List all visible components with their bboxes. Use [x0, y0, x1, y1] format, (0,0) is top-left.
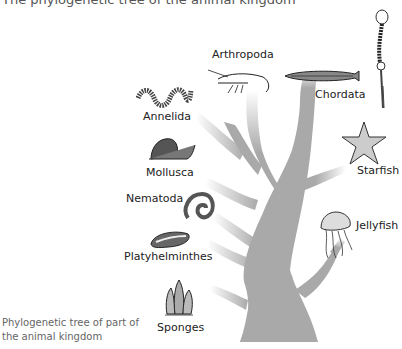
caption-line-2: the animal kingdom	[2, 330, 139, 344]
label-starfish: Starfish	[357, 164, 399, 177]
sponge-icon	[163, 278, 195, 318]
label-platyhelminthes: Platyhelminthes	[124, 250, 213, 263]
skeleton-icon	[370, 8, 395, 113]
phylogenetic-tree	[0, 0, 402, 349]
label-sponges: Sponges	[157, 321, 204, 334]
nematode-icon	[180, 190, 220, 224]
shrimp-icon	[208, 67, 273, 95]
label-arthropoda: Arthropoda	[212, 48, 274, 61]
starfish-icon	[340, 120, 388, 168]
snail-icon	[147, 133, 197, 163]
label-jellyfish: Jellyfish	[356, 219, 398, 232]
lancelet-icon	[283, 68, 361, 84]
caption-line-1: Phylogenetic tree of part of	[2, 316, 139, 330]
figure-caption: Phylogenetic tree of part of the animal …	[2, 316, 139, 344]
worm-icon	[136, 80, 194, 110]
label-nematoda: Nematoda	[126, 192, 183, 205]
jellyfish-icon	[318, 210, 354, 260]
label-mollusca: Mollusca	[146, 166, 194, 179]
label-chordata: Chordata	[315, 88, 366, 101]
label-annelida: Annelida	[143, 110, 191, 123]
flatworm-icon	[148, 228, 192, 250]
